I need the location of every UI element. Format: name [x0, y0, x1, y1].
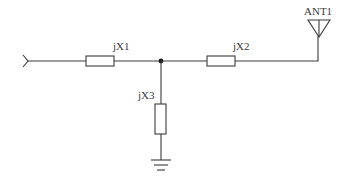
circuit-diagram: jX1 jX2 ANT1 jX3: [0, 0, 349, 183]
reactance-jx2-icon: [207, 56, 235, 66]
component-jx1: jX1: [86, 40, 130, 66]
label-jx1: jX1: [112, 40, 130, 52]
label-antenna: ANT1: [304, 5, 332, 17]
input-port-icon: [23, 55, 28, 67]
label-jx2: jX2: [232, 40, 250, 52]
antenna-icon: ANT1: [304, 5, 332, 37]
reactance-jx3-icon: [155, 104, 166, 134]
reactance-jx1-icon: [86, 56, 114, 66]
ground-icon: [151, 160, 171, 170]
component-jx2: jX2: [207, 40, 250, 66]
label-jx3: jX3: [137, 89, 155, 101]
component-jx3: jX3: [137, 89, 166, 134]
